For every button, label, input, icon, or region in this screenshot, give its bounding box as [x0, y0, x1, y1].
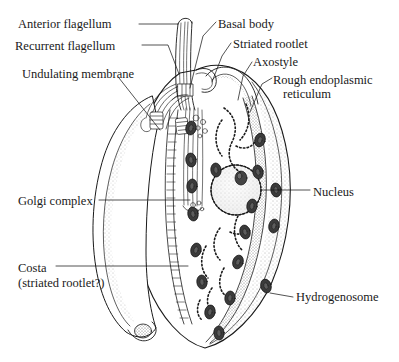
label-rough-endoplasmic-reticulum: Rough endoplasmic	[273, 73, 373, 87]
label-hydrogenosome: Hydrogenosome	[296, 290, 379, 304]
figure-canvas: Anterior flagellum Recurrent flagellum U…	[0, 0, 399, 362]
leader-recurrent-flagellum	[142, 45, 179, 74]
label-axostyle: Axostyle	[253, 55, 298, 69]
anterior-flagella-bundle	[176, 18, 195, 110]
label-golgi-complex: Golgi complex	[18, 194, 93, 208]
label-striated-rootlet: Striated rootlet	[233, 37, 308, 51]
label-recurrent-flagellum: Recurrent flagellum	[15, 39, 115, 53]
label-rough-endoplasmic-reticulum-line2: reticulum	[283, 87, 331, 101]
label-costa-subtitle: (striated rootlet?)	[18, 276, 104, 290]
label-costa: Costa	[18, 261, 46, 275]
label-undulating-membrane: Undulating membrane	[22, 67, 134, 81]
leader-hydrogenosome	[270, 293, 293, 297]
label-anterior-flagellum: Anterior flagellum	[18, 17, 111, 31]
diagram-artwork	[0, 0, 399, 362]
label-nucleus: Nucleus	[313, 185, 354, 199]
label-basal-body: Basal body	[218, 17, 274, 31]
